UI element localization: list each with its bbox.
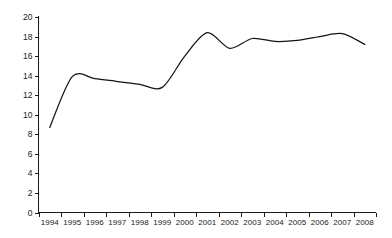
y-tick-label: 6	[28, 149, 33, 159]
x-tick-label: 2006	[311, 218, 329, 227]
y-tick-label: 2	[28, 188, 33, 198]
x-tick-group: 1994199519961997199819992000200120022003…	[40, 213, 377, 228]
x-tick-label: 2007	[333, 218, 351, 227]
x-tick-label: 2001	[198, 218, 216, 227]
x-tick-label: 2002	[221, 218, 239, 227]
x-tick-label: 1996	[86, 218, 104, 227]
x-tick-label: 2000	[176, 218, 194, 227]
y-tick-label: 0	[28, 208, 33, 218]
y-tick-label: 8	[28, 129, 33, 139]
x-tick-label: 1995	[63, 218, 81, 227]
y-tick-label: 10	[23, 110, 33, 120]
data-series-line	[50, 33, 365, 128]
y-tick-label: 4	[28, 168, 33, 178]
x-tick-label: 1997	[108, 218, 126, 227]
y-tick-label: 14	[23, 71, 33, 81]
y-tick-label: 20	[23, 12, 33, 22]
x-tick-label: 1998	[131, 218, 149, 227]
x-axis: 1994199519961997199819992000200120022003…	[39, 213, 377, 228]
y-tick-label: 12	[23, 90, 33, 100]
y-tick-label: 18	[23, 32, 33, 42]
y-tick-label: 16	[23, 51, 33, 61]
x-tick-label: 1994	[41, 218, 59, 227]
x-tick-label: 2008	[356, 218, 374, 227]
line-chart: 02468101214161820 1994199519961997199819…	[0, 0, 392, 238]
x-tick-label: 2004	[266, 218, 284, 227]
y-axis: 02468101214161820	[23, 12, 38, 218]
plot-area	[50, 33, 365, 128]
y-tick-group: 02468101214161820	[23, 12, 38, 218]
x-tick-label: 2003	[243, 218, 261, 227]
chart-canvas: 02468101214161820 1994199519961997199819…	[0, 0, 392, 238]
x-tick-label: 2005	[288, 218, 306, 227]
x-tick-label: 1999	[153, 218, 171, 227]
